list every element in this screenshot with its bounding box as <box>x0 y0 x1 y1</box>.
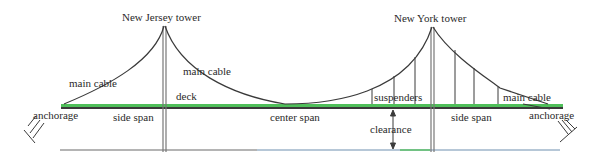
label-deck: deck <box>176 90 197 102</box>
anchorage-right-symbol <box>558 120 577 142</box>
ny-tower-structure <box>431 27 434 152</box>
label-clearance: clearance <box>370 123 412 135</box>
suspension-bridge-diagram: New Jersey tower New York tower main cab… <box>0 0 598 157</box>
label-ny-tower: New York tower <box>394 12 466 24</box>
label-main-cable-right: main cable <box>503 91 551 103</box>
label-side-span-left: side span <box>113 111 154 123</box>
label-suspenders: suspenders <box>374 91 422 103</box>
label-nj-tower: New Jersey tower <box>122 11 201 23</box>
nj-tower-structure <box>163 26 166 152</box>
label-anchorage-left: anchorage <box>33 109 78 121</box>
label-main-cable-left: main cable <box>69 77 117 89</box>
label-anchorage-right: anchorage <box>529 109 574 121</box>
main-cables <box>64 26 550 109</box>
deck <box>61 104 563 109</box>
label-side-span-right: side span <box>451 111 492 123</box>
label-center-span: center span <box>270 111 320 123</box>
label-main-cable-center: main cable <box>183 65 231 77</box>
